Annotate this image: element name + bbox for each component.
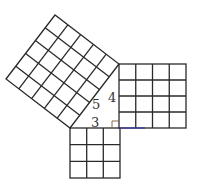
vertical-leg-label: 4 xyxy=(108,91,116,104)
square-on-vertical-leg xyxy=(119,64,186,128)
hypotenuse-label: 5 xyxy=(92,98,100,111)
pythagorean-diagram xyxy=(0,0,197,192)
square-on-horizontal-leg xyxy=(70,128,120,178)
square-on-hypotenuse xyxy=(6,15,119,128)
right-angle-mark xyxy=(112,121,119,128)
horizontal-leg-label: 3 xyxy=(91,116,99,129)
